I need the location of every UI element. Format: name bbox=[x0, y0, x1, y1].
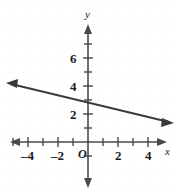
x-axis-label: x bbox=[165, 146, 170, 157]
x-tick-label-neg2: –2 bbox=[51, 149, 64, 162]
origin-label: O bbox=[78, 148, 87, 160]
y-tick-label-6: 6 bbox=[70, 52, 77, 65]
coordinate-plane-figure: 6 4 2 –4 –2 2 4 O y x bbox=[0, 0, 177, 194]
x-tick-label-4: 4 bbox=[145, 149, 152, 162]
graph-canvas bbox=[0, 0, 177, 194]
y-tick-label-2: 2 bbox=[70, 108, 77, 121]
y-tick-label-4: 4 bbox=[70, 80, 77, 93]
x-tick-label-neg4: –4 bbox=[21, 149, 34, 162]
x-tick-label-2: 2 bbox=[115, 149, 122, 162]
y-axis-label: y bbox=[85, 9, 90, 20]
